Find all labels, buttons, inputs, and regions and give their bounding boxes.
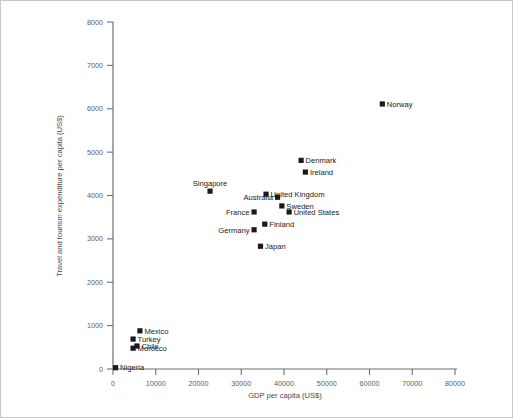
- x-tick-label: 80000: [445, 379, 465, 388]
- data-point[interactable]: France: [226, 208, 257, 217]
- data-point[interactable]: Norway: [380, 100, 413, 109]
- y-tick-label: 4000: [87, 191, 103, 200]
- point-marker[interactable]: [303, 169, 308, 174]
- x-tick-label: 20000: [189, 379, 209, 388]
- x-tick-label: 10000: [146, 379, 166, 388]
- point-marker[interactable]: [279, 203, 284, 208]
- point-label: United States: [294, 208, 340, 217]
- point-marker[interactable]: [299, 158, 304, 163]
- point-label: Germany: [218, 226, 249, 235]
- data-point[interactable]: Germany: [218, 226, 256, 235]
- data-point[interactable]: Ireland: [303, 168, 333, 177]
- x-tick-label: 40000: [274, 379, 294, 388]
- data-point[interactable]: Nigeria: [113, 363, 145, 372]
- point-label: France: [226, 208, 250, 217]
- point-label: Singapore: [193, 179, 228, 188]
- point-marker[interactable]: [130, 336, 135, 341]
- y-tick-label: 1000: [87, 321, 103, 330]
- y-tick-label: 3000: [87, 234, 103, 243]
- scatter-chart: 010002000300040005000600070008000 010000…: [0, 0, 513, 418]
- x-tick-label: 60000: [360, 379, 380, 388]
- data-point-group: NorwayDenmarkIrelandSingaporeUnited King…: [113, 100, 413, 373]
- point-label: Nigeria: [120, 363, 145, 372]
- y-axis-title: Travel and tourism expenditure per capit…: [55, 115, 64, 277]
- point-marker[interactable]: [251, 227, 256, 232]
- point-marker[interactable]: [287, 209, 292, 214]
- point-marker[interactable]: [258, 244, 263, 249]
- point-marker[interactable]: [275, 195, 280, 200]
- y-tick-label: 8000: [87, 18, 103, 27]
- x-tick-label: 50000: [317, 379, 337, 388]
- point-label: Morocco: [138, 344, 167, 353]
- data-point[interactable]: Denmark: [299, 156, 337, 165]
- y-tick-label: 0: [99, 365, 103, 374]
- y-tick-label: 5000: [87, 148, 103, 157]
- y-axis-ticks: 010002000300040005000600070008000: [87, 18, 113, 374]
- point-label: Denmark: [306, 156, 337, 165]
- point-label: Ireland: [310, 168, 333, 177]
- data-point[interactable]: Finland: [262, 220, 294, 229]
- point-marker[interactable]: [113, 365, 118, 370]
- point-label: Finland: [269, 220, 294, 229]
- data-point[interactable]: Singapore: [193, 179, 228, 194]
- point-marker[interactable]: [137, 328, 142, 333]
- x-tick-label: 0: [111, 379, 115, 388]
- point-marker[interactable]: [251, 209, 256, 214]
- y-tick-label: 6000: [87, 104, 103, 113]
- x-axis-title: GDP per capita (US$): [248, 391, 322, 400]
- chart-svg: 010002000300040005000600070008000 010000…: [0, 0, 513, 418]
- data-point[interactable]: Japan: [258, 242, 286, 251]
- x-axis-ticks: 0100002000030000400005000060000700008000…: [111, 369, 465, 388]
- y-tick-label: 2000: [87, 278, 103, 287]
- point-marker[interactable]: [262, 222, 267, 227]
- data-point[interactable]: United States: [287, 208, 340, 217]
- point-marker[interactable]: [130, 346, 135, 351]
- x-tick-label: 30000: [231, 379, 251, 388]
- point-label: Japan: [265, 242, 286, 251]
- x-tick-label: 70000: [402, 379, 422, 388]
- point-label: Australia: [244, 193, 274, 202]
- point-label: Norway: [387, 100, 413, 109]
- point-marker[interactable]: [207, 189, 212, 194]
- y-tick-label: 7000: [87, 61, 103, 70]
- point-marker[interactable]: [380, 101, 385, 106]
